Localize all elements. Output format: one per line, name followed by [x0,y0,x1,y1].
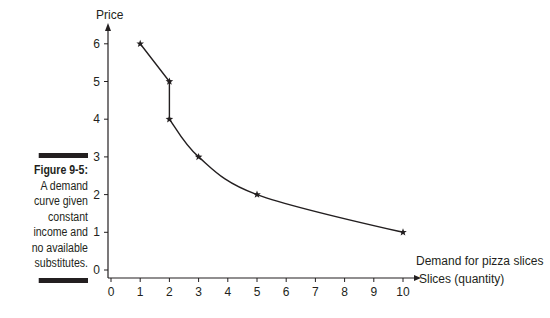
x-tick-label: 6 [283,285,290,299]
star-marker-icon [399,228,407,235]
y-tick-label: 4 [93,112,100,126]
axes [105,23,421,281]
x-tick-label: 4 [224,285,231,299]
demand-chart: 0123456789100123456 Price Slices (quanti… [0,0,550,318]
x-tick-label: 0 [108,285,115,299]
x-tick-label: 9 [370,285,377,299]
x-tick-label: 3 [195,285,202,299]
x-tick-label: 10 [396,285,410,299]
demand-curve [140,44,403,233]
x-tick-label: 7 [312,285,319,299]
x-axis-label: Slices (quantity) [419,272,504,286]
star-marker-icon [136,40,144,47]
y-tick-label: 3 [93,150,100,164]
y-tick-label: 6 [93,37,100,51]
star-marker-icon [253,191,261,198]
x-tick-label: 8 [341,285,348,299]
y-tick-label: 5 [93,75,100,89]
y-tick-label: 1 [93,225,100,239]
y-tick-label: 0 [93,263,100,277]
ticks: 0123456789100123456 [93,37,410,299]
y-axis-arrow-icon [105,23,111,31]
star-marker-icon [166,115,174,122]
x-tick-label: 5 [254,285,261,299]
y-tick-label: 2 [93,188,100,202]
demand-label: Demand for pizza slices [416,254,543,268]
y-axis-label: Price [96,8,124,22]
x-tick-label: 1 [137,285,144,299]
star-markers [136,40,406,236]
x-tick-label: 2 [166,285,173,299]
